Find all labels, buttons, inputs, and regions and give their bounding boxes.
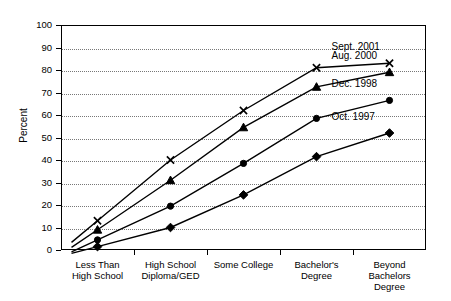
marker-triangle	[385, 68, 393, 76]
legend-label-dec-1998: Dec. 1998	[332, 78, 378, 89]
x-category-label: Beyond Bachelors Degree	[344, 259, 436, 292]
y-tick-label: 30	[41, 178, 52, 188]
x-tick-mark	[280, 250, 281, 255]
marker-triangle	[93, 226, 101, 234]
marker-circle	[240, 160, 246, 166]
y-tick-label: 90	[41, 43, 52, 53]
y-tick-label: 50	[41, 133, 52, 143]
x-tick-mark	[134, 250, 135, 255]
x-axis: Less Than High SchoolHigh School Diploma…	[61, 250, 426, 298]
marker-diamond	[239, 191, 248, 200]
marker-diamond	[166, 223, 175, 232]
y-axis-title: Percent	[18, 96, 29, 156]
y-tick-label: 60	[41, 110, 52, 120]
marker-diamond	[312, 152, 321, 161]
y-tick-label: 70	[41, 88, 52, 98]
marker-x	[94, 217, 101, 224]
y-tick-label: 10	[41, 223, 52, 233]
series-line-2	[72, 100, 390, 252]
y-tick-label: 20	[41, 200, 52, 210]
marker-circle	[386, 97, 392, 103]
education-internet-use-line-chart: 0102030405060708090100 Percent Less Than…	[0, 0, 451, 301]
marker-circle	[313, 115, 319, 121]
y-axis: 0102030405060708090100	[0, 25, 61, 250]
x-tick-mark	[207, 250, 208, 255]
marker-diamond	[385, 129, 394, 138]
y-tick-label: 80	[41, 65, 52, 75]
y-tick-label: 0	[47, 245, 52, 255]
y-tick-label: 40	[41, 155, 52, 165]
series-line-1	[72, 72, 390, 247]
legend-label-oct-1997: Oct. 1997	[332, 111, 375, 122]
marker-x	[167, 156, 174, 163]
marker-triangle	[239, 123, 247, 131]
x-tick-mark	[353, 250, 354, 255]
y-tick-label: 100	[36, 20, 52, 30]
marker-circle	[167, 203, 173, 209]
legend-label-aug-2000: Aug. 2000	[332, 50, 378, 61]
marker-x	[240, 107, 247, 114]
marker-triangle	[166, 176, 174, 184]
series-line-3	[72, 133, 390, 253]
